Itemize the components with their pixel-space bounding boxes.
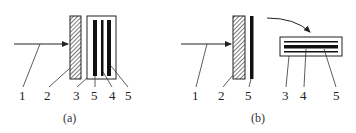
label-4: 4 xyxy=(109,88,116,103)
label-4: 4 xyxy=(300,88,307,103)
leader-2 xyxy=(49,68,70,87)
leader-5 xyxy=(249,79,251,87)
bar-5-right xyxy=(107,20,111,76)
leader-3 xyxy=(286,56,289,87)
caption-a: (a) xyxy=(63,111,76,125)
label-2: 2 xyxy=(218,88,225,103)
label-3: 3 xyxy=(282,88,289,103)
label-1: 1 xyxy=(192,88,199,103)
bar-5-left xyxy=(93,20,97,76)
layer-bottom xyxy=(284,51,338,53)
panel-a: 1 2 3 5 4 5 (a) xyxy=(14,16,132,125)
leader-1 xyxy=(196,44,207,87)
hatched-plate-2 xyxy=(233,16,245,79)
label-5: 5 xyxy=(333,88,340,103)
bar-5-standalone xyxy=(250,16,254,79)
panel-b: 1 2 5 3 4 5 (b) xyxy=(181,16,342,125)
bar-4 xyxy=(101,20,104,76)
layer-4-5 xyxy=(284,45,338,49)
leader-1 xyxy=(23,44,40,87)
caption-b: (b) xyxy=(251,111,265,125)
transfer-arrow xyxy=(267,18,310,32)
label-2: 2 xyxy=(44,88,51,103)
hatched-plate-2 xyxy=(70,16,81,79)
label-5: 5 xyxy=(245,88,252,103)
diagram-canvas: 1 2 3 5 4 5 (a) 1 2 5 3 4 5 (b) xyxy=(0,0,356,133)
label-5: 5 xyxy=(91,88,98,103)
label-5: 5 xyxy=(125,88,132,103)
layer-top xyxy=(284,41,338,43)
label-1: 1 xyxy=(19,88,26,103)
leader-2 xyxy=(223,75,233,87)
label-3: 3 xyxy=(73,88,80,103)
